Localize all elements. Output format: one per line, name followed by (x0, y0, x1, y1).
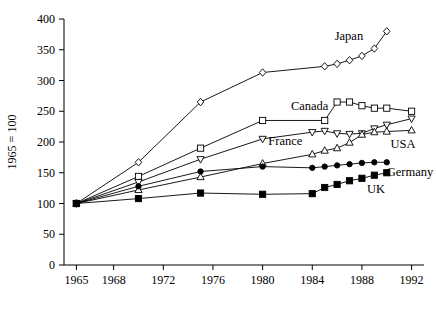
x-tick-label: 1984 (300, 273, 324, 287)
data-point-marker (346, 57, 353, 64)
data-point-marker (347, 161, 352, 166)
data-point-marker (384, 105, 390, 111)
y-axis-ticks: 050100150200250300350400 (37, 12, 64, 272)
data-point-marker (359, 52, 366, 59)
data-point-marker (260, 117, 266, 123)
data-point-marker (334, 181, 340, 187)
x-axis-ticks: 19651968197219761980198419881992 (64, 265, 423, 287)
data-point-marker (334, 99, 340, 105)
data-point-marker (136, 184, 141, 189)
data-point-marker (359, 175, 365, 181)
data-point-marker (372, 160, 377, 165)
data-point-marker (310, 165, 315, 170)
data-point-marker (73, 200, 79, 206)
data-point-marker (359, 160, 364, 165)
y-axis-group: 050100150200250300350400 1965 = 100 (5, 12, 64, 272)
y-tick-label: 400 (37, 12, 55, 26)
series-japan (73, 28, 390, 208)
data-point-marker (371, 172, 377, 178)
data-point-marker (321, 63, 328, 70)
y-tick-label: 200 (37, 135, 55, 149)
x-tick-label: 1965 (64, 273, 88, 287)
x-tick-label: 1968 (102, 273, 126, 287)
y-axis-title: 1965 = 100 (5, 115, 19, 170)
data-point-marker (260, 164, 265, 169)
y-tick-label: 0 (49, 258, 55, 272)
x-tick-label: 1992 (400, 273, 424, 287)
x-tick-label: 1972 (151, 273, 175, 287)
data-point-marker (197, 145, 203, 151)
data-point-marker (259, 69, 266, 76)
data-point-marker (334, 131, 341, 138)
series-label-uk: UK (367, 182, 385, 196)
x-tick-label: 1976 (201, 273, 225, 287)
y-tick-label: 350 (37, 43, 55, 57)
y-tick-label: 100 (37, 197, 55, 211)
y-tick-label: 300 (37, 74, 55, 88)
data-point-marker (408, 126, 415, 132)
data-point-marker (198, 169, 203, 174)
data-point-marker (260, 191, 266, 197)
series-layer (73, 28, 415, 208)
series-label-germany: Germany (387, 165, 434, 179)
data-point-marker (383, 128, 390, 135)
y-tick-label: 50 (43, 227, 55, 241)
x-tick-label: 1980 (251, 273, 275, 287)
data-point-marker (322, 184, 328, 190)
data-point-marker (135, 195, 141, 201)
chart-container: 050100150200250300350400 1965 = 100 1965… (0, 0, 436, 310)
data-point-marker (322, 117, 328, 123)
data-point-marker (371, 105, 377, 111)
series-line (76, 130, 411, 203)
data-point-marker (322, 164, 327, 169)
data-point-marker (135, 173, 141, 179)
series-line (76, 31, 386, 203)
data-point-marker (359, 103, 365, 109)
series-line (76, 173, 386, 204)
data-point-marker (309, 191, 315, 197)
data-point-marker (334, 163, 339, 168)
index-line-chart: 050100150200250300350400 1965 = 100 1965… (0, 0, 436, 310)
series-label-france: France (268, 134, 302, 148)
y-tick-label: 150 (37, 166, 55, 180)
data-point-marker (334, 60, 341, 67)
data-point-marker (346, 99, 352, 105)
y-tick-label: 250 (37, 104, 55, 118)
series-label-canada: Canada (291, 99, 329, 113)
data-point-marker (197, 190, 203, 196)
series-label-usa: USA (390, 137, 415, 151)
x-axis-group: 19651968197219761980198419881992 (64, 265, 424, 287)
data-point-marker (346, 178, 352, 184)
series-line (76, 102, 411, 203)
x-tick-label: 1988 (350, 273, 374, 287)
data-point-marker (346, 131, 353, 138)
data-point-marker (408, 108, 414, 114)
data-point-marker (346, 139, 353, 146)
series-label-japan: Japan (335, 29, 364, 43)
